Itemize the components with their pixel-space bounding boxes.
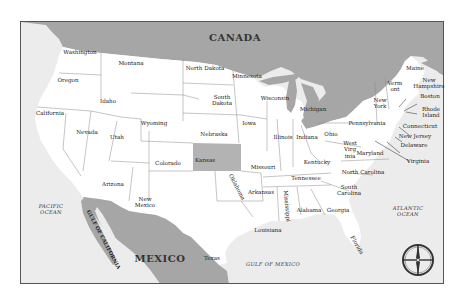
state-label-indiana: Indiana bbox=[296, 134, 317, 140]
state-label-new-hampshire: NewHampshire bbox=[413, 77, 444, 90]
state-label-nevada: Nevada bbox=[76, 129, 98, 135]
west-virginia-line-2: Virg bbox=[344, 147, 356, 153]
state-label-virginia: Virginia bbox=[407, 158, 430, 164]
state-label-montana: Montana bbox=[118, 60, 143, 66]
state-label-ohio: Ohio bbox=[324, 131, 337, 137]
atlantic-line-2: OCEAN bbox=[397, 211, 419, 217]
ocean-label-atlantic: ATLANTICOCEAN bbox=[393, 206, 424, 218]
state-label-north-dakota: North Dakota bbox=[186, 65, 225, 71]
state-label-iowa: Iowa bbox=[242, 120, 256, 126]
vermont-line-1: Verm bbox=[388, 80, 403, 86]
state-label-kansas: Kansas bbox=[195, 157, 215, 163]
rhode-island-line-2: Island bbox=[422, 112, 439, 118]
rhode-island-line-1: Rhode bbox=[422, 106, 440, 112]
state-label-new-mexico: NewMexico bbox=[135, 196, 155, 209]
state-label-north-carolina: North Carolina bbox=[342, 169, 385, 175]
state-label-south-dakota: SouthDakota bbox=[212, 94, 232, 107]
state-label-pennsylvania: Pennsylvania bbox=[348, 120, 385, 126]
state-label-louisiana: Louisiana bbox=[254, 227, 281, 233]
west-virginia-line-3: inia bbox=[345, 153, 356, 159]
south-dakota-line-1: South bbox=[214, 94, 231, 100]
compass-icon bbox=[403, 245, 433, 275]
new-york-line-1: New bbox=[374, 97, 387, 103]
state-label-missouri: Missouri bbox=[251, 164, 276, 170]
state-label-alabama: Alabama bbox=[297, 207, 322, 213]
state-label-arkansas: Arkansas bbox=[248, 189, 274, 195]
state-label-connecticut: Connecticut bbox=[403, 123, 437, 129]
state-label-rhode-island: RhodeIsland bbox=[422, 106, 440, 119]
ocean-label-pacific: PACIFICOCEAN bbox=[39, 204, 64, 216]
new-york-line-2: York bbox=[374, 103, 387, 109]
new-hampshire-line-1: New bbox=[422, 77, 435, 83]
state-label-washington: Washington bbox=[63, 49, 96, 55]
label-boston: Boston bbox=[420, 93, 440, 99]
state-label-south-carolina: SouthCarolina bbox=[337, 184, 361, 197]
state-label-michigan: Michigan bbox=[300, 106, 327, 112]
vermont-line-2: ont bbox=[390, 86, 399, 92]
state-label-nebraska: Nebraska bbox=[200, 131, 227, 137]
pacific-line-2: OCEAN bbox=[40, 209, 62, 215]
state-label-maryland: Maryland bbox=[356, 150, 383, 156]
state-label-new-york: NewYork bbox=[374, 97, 387, 110]
state-label-texas: Texas bbox=[204, 255, 220, 261]
south-carolina-line-2: Carolina bbox=[337, 190, 361, 196]
state-label-maine: Maine bbox=[406, 65, 424, 71]
water-label-gulf-of-mexico: GULF OF MEXICO bbox=[246, 262, 300, 268]
state-label-kentucky: Kentucky bbox=[304, 159, 330, 165]
state-label-california: California bbox=[36, 110, 64, 116]
south-dakota-line-2: Dakota bbox=[212, 100, 232, 106]
country-label-canada: CANADA bbox=[209, 32, 261, 44]
state-label-minnesota: Minnesota bbox=[232, 73, 262, 79]
west-virginia-line-1: West bbox=[343, 140, 357, 146]
state-label-georgia: Georgia bbox=[327, 207, 350, 213]
state-label-new-jersey: New Jersey bbox=[399, 133, 431, 139]
state-label-arizona: Arizona bbox=[102, 181, 124, 187]
state-label-west-virginia: WestVirginia bbox=[343, 140, 357, 159]
state-label-idaho: Idaho bbox=[100, 98, 116, 104]
state-label-tennessee: Tennessee bbox=[291, 175, 320, 181]
state-label-delaware: Delaware bbox=[400, 142, 427, 148]
state-label-utah: Utah bbox=[110, 134, 124, 140]
new-mexico-line-2: Mexico bbox=[135, 202, 155, 208]
new-hampshire-line-2: Hampshire bbox=[413, 83, 444, 89]
state-label-vermont: Vermont bbox=[388, 80, 403, 93]
state-label-wyoming: Wyoming bbox=[141, 120, 167, 126]
new-mexico-line-1: New bbox=[138, 196, 151, 202]
state-label-illinois: Illinois bbox=[273, 134, 292, 140]
state-label-oregon: Oregon bbox=[57, 77, 78, 83]
state-label-colorado: Colorado bbox=[155, 160, 181, 166]
state-label-wisconsin: Wisconsin bbox=[261, 95, 290, 101]
south-carolina-line-1: South bbox=[341, 184, 358, 190]
country-label-mexico: MEXICO bbox=[135, 253, 186, 265]
